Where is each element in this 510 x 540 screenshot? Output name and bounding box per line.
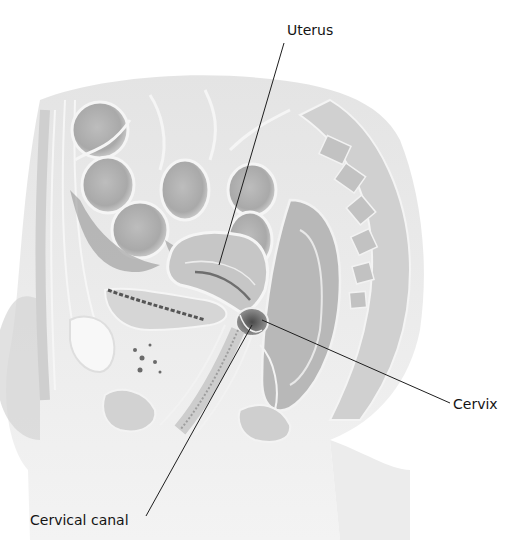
label-cervical-canal: Cervical canal (30, 512, 129, 528)
pelvis-anatomy-illustration (0, 0, 510, 540)
label-cervix: Cervix (453, 396, 498, 412)
label-uterus: Uterus (287, 22, 333, 38)
